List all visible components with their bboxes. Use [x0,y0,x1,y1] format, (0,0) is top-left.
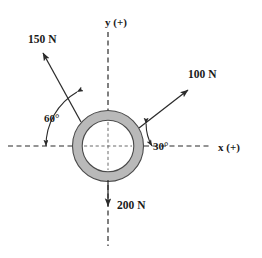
force-diagram-container: x (+) y (+) 100 N 150 N 200 N [0,0,262,258]
angle-60-label: 60° [44,112,59,124]
x-axis-label: x (+) [218,141,240,154]
angle-30-label: 30° [153,140,168,152]
ring-body [73,111,144,182]
force-150n-label: 150 N [28,33,57,45]
y-axis-label: y (+) [105,16,127,29]
angle-30-arc [146,124,152,146]
force-200n-label: 200 N [117,199,146,211]
force-diagram-svg: x (+) y (+) 100 N 150 N 200 N [0,0,262,258]
force-100n-label: 100 N [188,68,217,80]
force-100n-arrow [139,90,188,128]
